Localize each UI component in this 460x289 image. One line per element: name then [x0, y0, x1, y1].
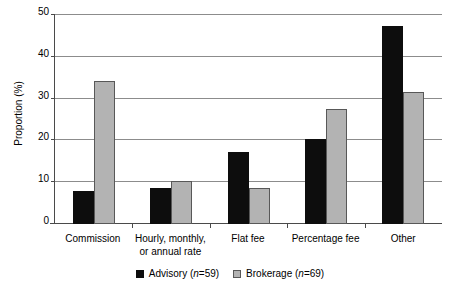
legend-swatch-icon [136, 270, 144, 278]
x-tick-label-line: Other [364, 232, 442, 245]
legend-item-advisory[interactable]: Advisory (n=59) [136, 268, 219, 279]
x-tick-label-line: or annual rate [132, 245, 210, 258]
bar-group [132, 15, 209, 224]
bar-group [287, 15, 364, 224]
chart-legend: Advisory (n=59)Brokerage (n=69) [0, 268, 460, 279]
x-axis-labels: CommissionHourly, monthly,or annual rate… [54, 230, 442, 264]
y-axis-title: Proportion (%) [13, 49, 24, 179]
x-tick-label: Other [364, 230, 442, 264]
legend-label: Brokerage (n=69) [246, 268, 324, 279]
bar-brokerage[interactable] [403, 92, 424, 224]
bar-advisory[interactable] [228, 152, 249, 224]
y-axis-title-container: Proportion (%) [8, 0, 28, 232]
x-tick-label: Percentage fee [287, 230, 365, 264]
bar-group [365, 15, 442, 224]
bar-group [55, 15, 132, 224]
bar-advisory[interactable] [73, 191, 94, 224]
y-tick-label: 0 [43, 215, 49, 226]
x-tick-label: Hourly, monthly,or annual rate [132, 230, 210, 264]
x-tick-label-line: Hourly, monthly, [132, 232, 210, 245]
legend-label: Advisory (n=59) [149, 268, 219, 279]
bar-advisory[interactable] [382, 26, 403, 224]
x-tick-label: Flat fee [209, 230, 287, 264]
x-tick-label: Commission [54, 230, 132, 264]
legend-swatch-icon [233, 270, 241, 278]
x-tick-label-line: Flat fee [209, 232, 287, 245]
bar-chart-figure: Proportion (%) 01020304050 CommissionHou… [0, 0, 460, 289]
y-tick-label: 50 [38, 6, 49, 17]
bar-brokerage[interactable] [249, 188, 270, 224]
plot-area: 01020304050 [54, 14, 442, 224]
bar-groups [55, 15, 442, 224]
bar-brokerage[interactable] [171, 181, 192, 224]
y-tick-label: 30 [38, 89, 49, 100]
y-tick-label: 10 [38, 173, 49, 184]
y-tick-label: 20 [38, 131, 49, 142]
legend-item-brokerage[interactable]: Brokerage (n=69) [233, 268, 324, 279]
x-tick-label-line: Commission [54, 232, 132, 245]
bar-brokerage[interactable] [326, 109, 347, 224]
x-tick-label-line: Percentage fee [287, 232, 365, 245]
bar-advisory[interactable] [305, 139, 326, 224]
bar-brokerage[interactable] [94, 81, 115, 224]
y-tick-label: 40 [38, 47, 49, 58]
bar-group [210, 15, 287, 224]
bar-advisory[interactable] [150, 188, 171, 224]
